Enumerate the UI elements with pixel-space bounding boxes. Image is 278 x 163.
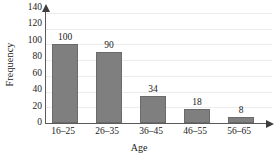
plot-area: 100 90 34 18 8 [45,13,272,123]
y-tick-label: 100 [16,36,42,46]
gridline [45,29,272,30]
y-axis-arrow-icon [42,4,50,12]
bar-value-label: 100 [47,32,83,42]
gridline [45,13,272,14]
y-tick-label: 140 [16,3,42,13]
y-tick-label: 80 [16,53,42,63]
gridline [45,44,272,45]
y-tick-label: 20 [16,102,42,112]
gridline [45,60,272,61]
bar-chart-figure: Frequency 0 20 40 60 80 100 120 140 100 … [0,0,278,163]
bar[interactable] [184,109,210,123]
y-axis-line [45,11,46,123]
bar-value-label: 8 [223,105,259,115]
bar[interactable] [52,44,78,123]
y-axis-title: Frequency [2,0,16,128]
bar-value-label: 90 [91,40,127,50]
gridline [45,76,272,77]
bar[interactable] [140,96,166,123]
bar-value-label: 18 [179,97,215,107]
x-axis-title: Age [0,142,278,153]
y-axis-title-text: Frequency [4,42,15,86]
x-axis-line [45,123,267,124]
y-tick-label: 60 [16,69,42,79]
bar-value-label: 34 [135,84,171,94]
y-tick-label: 120 [16,20,42,30]
bar[interactable] [96,52,122,123]
y-axis-tick-labels: 0 20 40 60 80 100 120 140 [16,8,42,123]
x-tick-label: 56–65 [206,126,272,136]
y-tick-label: 40 [16,85,42,95]
